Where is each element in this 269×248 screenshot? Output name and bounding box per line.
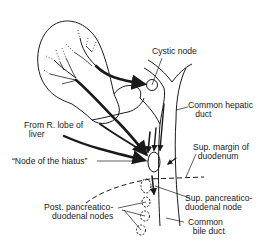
label-sup-pancreaticoduodenal-node: Sup. pancreatico- duodenal node [185, 194, 252, 212]
gallbladder [38, 21, 144, 124]
label-sup-margin-of-duodenum: Sup. margin of duodenum [193, 143, 249, 161]
label-common-hepatic-duct: Common hepatic duct [188, 101, 253, 119]
gallbladder-lymphatics [44, 30, 96, 84]
label-from-r-lobe-of-liver: From R. lobe of liver [24, 121, 83, 139]
label-post-pancreaticoduodenal-nodes: Post. pancreatico- duodenal nodes [44, 203, 113, 221]
label-node-of-the-hiatus: “Node of the hiatus” [12, 157, 87, 166]
label-cystic-node: Cystic node [152, 47, 197, 56]
label-common-bile-duct: Common bile duct [188, 218, 225, 236]
lymph-nodes [137, 80, 161, 236]
sup-pancreaticoduodenal-node [141, 179, 151, 193]
